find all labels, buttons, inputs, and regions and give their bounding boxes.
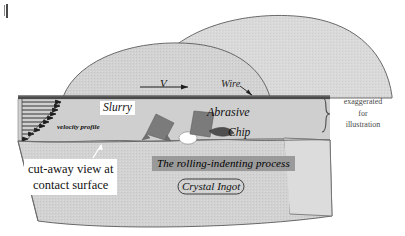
scan-artifact-mark — [6, 4, 8, 18]
chip-label: Chip — [228, 127, 250, 139]
rolling-indenting-process-label: The rolling-indenting process — [152, 156, 295, 171]
velocity-symbol-label: V — [160, 78, 167, 89]
velocity-profile-label: velocity profile — [57, 124, 100, 131]
crystal-ingot-label: Crystal Ingot — [182, 181, 240, 192]
exaggerated-line-1: exaggerated — [331, 96, 395, 108]
exaggerated-line-3: illustration — [331, 119, 395, 131]
abrasive-label: Abrasive — [207, 106, 250, 118]
wire-bar — [18, 96, 330, 100]
wire-label: Wire — [221, 79, 240, 90]
slurry-label: Slurry — [100, 101, 135, 115]
figure-canvas: Slurry Abrasive Chip Wire V velocity pro… — [0, 0, 405, 236]
cutaway-note: cut-away view at contact surface — [24, 159, 117, 195]
cutaway-line-1: cut-away view at — [28, 161, 113, 177]
exaggerated-line-2: for — [331, 108, 395, 120]
exaggerated-note: exaggerated for illustration — [331, 96, 395, 131]
cutaway-line-2: contact surface — [28, 177, 113, 193]
slurry-layer — [18, 99, 330, 142]
